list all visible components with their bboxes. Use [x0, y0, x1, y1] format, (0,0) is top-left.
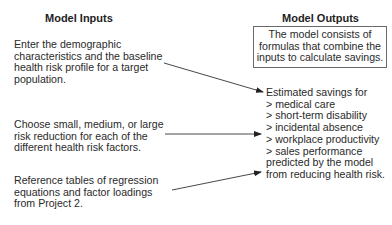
- model-outputs-heading: Model Outputs: [282, 12, 359, 24]
- text-line: > workplace productivity: [266, 134, 385, 146]
- arrow-icon: [172, 172, 261, 190]
- text-line: Enter the demographic: [14, 39, 162, 51]
- text-line: inputs to calculate savings.: [254, 52, 386, 64]
- model-description-box: The model consists of formulas that comb…: [253, 26, 387, 68]
- text-line: Estimated savings for: [266, 87, 385, 99]
- text-line: The model consists of: [254, 29, 386, 41]
- arrow-icon: [164, 63, 263, 92]
- text-line: Choose small, medium, or large: [14, 119, 164, 131]
- text-line: from reducing health risk.: [266, 169, 385, 181]
- text-line: population.: [14, 74, 162, 86]
- text-line: different health risk factors.: [14, 142, 164, 154]
- input-demographics-text: Enter the demographic characteristics an…: [14, 39, 162, 86]
- input-risk-reduction-text: Choose small, medium, or large risk redu…: [14, 119, 164, 154]
- input-reference-tables-text: Reference tables of regression equations…: [14, 175, 158, 210]
- model-inputs-heading: Model Inputs: [45, 12, 113, 24]
- text-line: Reference tables of regression: [14, 175, 158, 187]
- estimated-savings-text: Estimated savings for > medical care > s…: [266, 87, 385, 181]
- text-line: from Project 2.: [14, 198, 158, 210]
